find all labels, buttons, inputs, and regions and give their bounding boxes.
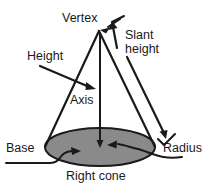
slant-height-label-line1: Slant [125, 28, 154, 42]
axis-label: Axis [70, 93, 94, 107]
figure-caption: Right cone [66, 169, 126, 183]
base-label: Base [6, 141, 35, 155]
slant-height-label-line2: height [125, 42, 160, 56]
slant-arrow-up-shaft [113, 27, 117, 48]
slant-leader-arrowhead-icon [160, 130, 168, 139]
height-arrow-down-right-icon [86, 82, 97, 90]
height-pointer-line [40, 66, 87, 86]
vertex-label: Vertex [62, 11, 98, 25]
slant-leader-line [127, 57, 163, 131]
height-label: Height [27, 49, 64, 63]
vertex-arrow-up-right-icon [100, 28, 110, 34]
cone-diagram-svg: Vertex Slant height Height Axis Base Rad… [0, 0, 215, 187]
right-cone-figure: Vertex Slant height Height Axis Base Rad… [0, 0, 215, 187]
radius-label: Radius [163, 141, 202, 155]
